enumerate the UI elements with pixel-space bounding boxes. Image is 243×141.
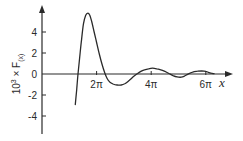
y-tick-label: -2 (28, 90, 37, 101)
y-tick-label: -4 (28, 111, 37, 122)
y-axis-arrow-icon (39, 5, 45, 13)
y-axis-label: 103 × F(x) (10, 54, 25, 95)
y-label-prefix: 10 (11, 83, 22, 95)
y-tick-label: 0 (31, 69, 37, 80)
y-label-sub: (x) (17, 54, 25, 62)
chart: 420-2-4 2π4π6π x 103 × F(x) (0, 0, 243, 141)
y-tick-label: 4 (31, 27, 37, 38)
plot-area: 420-2-4 2π4π6π x 103 × F(x) (0, 0, 243, 141)
x-axis-arrow-icon (225, 71, 233, 77)
x-axis-label: x (218, 75, 225, 90)
data-curve (75, 13, 214, 104)
y-tick-label: 2 (31, 48, 37, 59)
y-label-mid: × F (11, 62, 22, 80)
x-tick-label: 4π (145, 79, 158, 90)
x-tick-label: 2π (90, 79, 103, 90)
x-tick-label: 6π (200, 79, 213, 90)
